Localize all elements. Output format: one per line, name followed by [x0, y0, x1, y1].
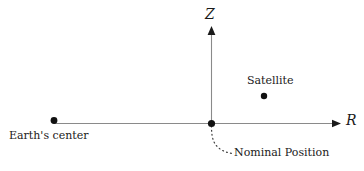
nominal-position-point	[208, 120, 215, 127]
z-axis-label: Z	[205, 6, 215, 22]
satellite-label: Satellite	[247, 74, 294, 87]
diagram-canvas: Z R Satellite Earth's center Nominal Pos…	[0, 0, 364, 171]
earth-center-point	[51, 117, 58, 124]
r-axis-label: R	[346, 112, 357, 128]
z-axis-arrowhead	[208, 26, 216, 35]
r-axis-arrowhead	[332, 120, 341, 127]
earth-center-label: Earth's center	[9, 129, 88, 142]
nominal-position-label: Nominal Position	[234, 146, 329, 159]
nominal-position-leader-line	[212, 126, 233, 154]
satellite-point	[261, 93, 267, 99]
